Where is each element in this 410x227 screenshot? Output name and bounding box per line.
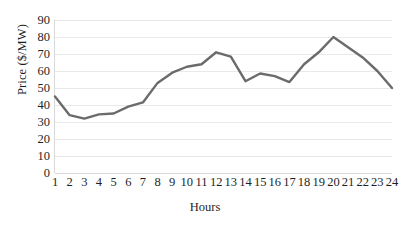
x-tick-label-13: 13: [225, 176, 238, 189]
x-tick-label-23: 23: [371, 176, 384, 189]
series-line-price: [55, 37, 392, 119]
x-tick-label-17: 17: [283, 176, 296, 189]
x-tick-label-1: 1: [52, 176, 58, 189]
y-tick-label-0: 0: [44, 167, 50, 180]
x-tick-label-4: 4: [96, 176, 102, 189]
x-tick-label-8: 8: [154, 176, 160, 189]
price-line-chart: Price ($/MW) 0102030405060708090 1234567…: [0, 0, 410, 227]
x-tick-label-6: 6: [125, 176, 131, 189]
series-line-group: [55, 20, 392, 173]
y-tick-label-20: 20: [38, 133, 51, 146]
y-tick-label-70: 70: [38, 48, 51, 61]
x-tick-label-22: 22: [356, 176, 369, 189]
x-tick-label-5: 5: [110, 176, 116, 189]
y-tick-label-80: 80: [38, 31, 51, 44]
gridline-0: [55, 173, 392, 174]
y-axis-title: Price ($/MW): [15, 0, 30, 130]
x-tick-label-2: 2: [67, 176, 73, 189]
x-tick-label-3: 3: [81, 176, 87, 189]
x-axis-tick-labels: 123456789101112131415161718192021222324: [55, 176, 392, 192]
x-axis-title: Hours: [0, 200, 410, 215]
y-tick-label-10: 10: [38, 150, 51, 163]
y-tick-label-50: 50: [38, 82, 51, 95]
x-tick-label-12: 12: [210, 176, 223, 189]
y-tick-label-90: 90: [38, 14, 51, 27]
x-tick-label-10: 10: [181, 176, 194, 189]
x-tick-label-19: 19: [312, 176, 325, 189]
x-tick-label-11: 11: [195, 176, 207, 189]
x-tick-label-15: 15: [254, 176, 267, 189]
x-tick-label-14: 14: [239, 176, 252, 189]
x-tick-label-24: 24: [386, 176, 399, 189]
x-tick-label-16: 16: [269, 176, 282, 189]
x-tick-label-7: 7: [140, 176, 146, 189]
x-tick-label-20: 20: [327, 176, 340, 189]
y-tick-label-30: 30: [38, 116, 51, 129]
x-tick-label-18: 18: [298, 176, 311, 189]
x-tick-label-21: 21: [342, 176, 355, 189]
x-tick-label-9: 9: [169, 176, 175, 189]
plot-area: 0102030405060708090: [55, 20, 392, 173]
y-tick-label-60: 60: [38, 65, 51, 78]
y-tick-label-40: 40: [38, 99, 51, 112]
